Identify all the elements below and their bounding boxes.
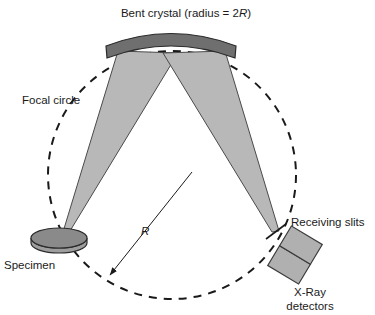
xray-detector-block [268, 226, 323, 284]
title-label-var: R [239, 7, 247, 19]
detectors-label-line2: detectors [286, 300, 334, 312]
diagram-svg: Bent crystal (radius = 2R) Focal circle … [0, 0, 375, 315]
detectors-label-line1: X-Ray [294, 286, 326, 298]
title-label-tail: ) [247, 7, 251, 19]
beam-left [63, 51, 178, 232]
radius-label: R [141, 225, 149, 237]
radius-arrow [110, 172, 192, 275]
figure-container: Bent crystal (radius = 2R) Focal circle … [0, 0, 375, 315]
receiving-slits-label: Receiving slits [291, 216, 365, 228]
focal-circle-label: Focal circle [22, 94, 80, 106]
specimen-top [31, 228, 87, 248]
title-label: Bent crystal (radius = 2R) [121, 7, 251, 19]
beam-right [163, 51, 279, 232]
specimen-label: Specimen [4, 259, 55, 271]
title-label-text: Bent crystal (radius = 2 [121, 7, 239, 19]
